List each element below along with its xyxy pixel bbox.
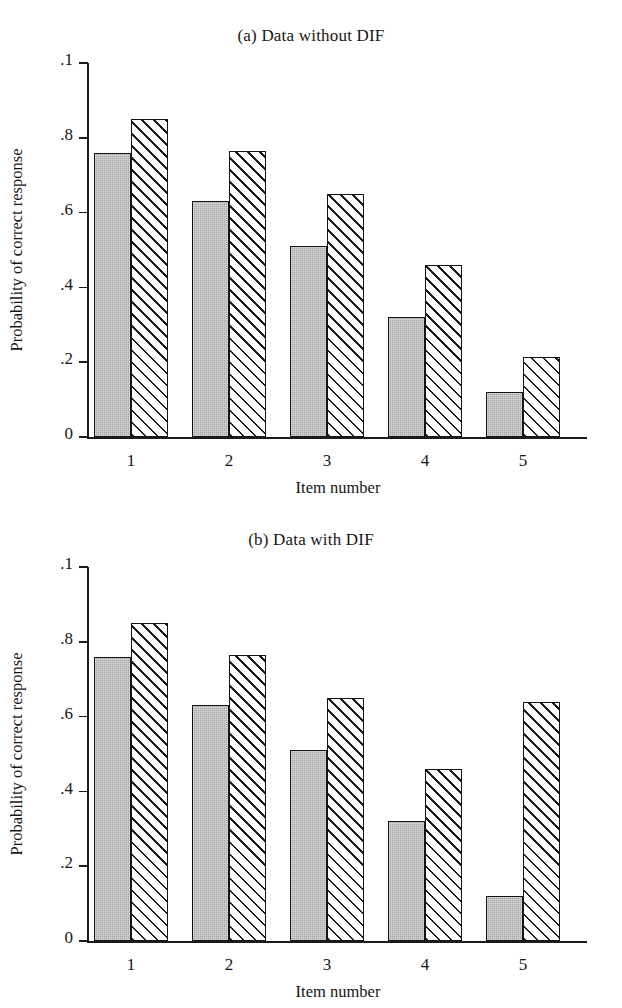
x-axis-category-label: 4 <box>388 955 462 975</box>
panel-b-bar-groups <box>88 567 588 941</box>
panel-b-title: (b) Data with DIF <box>0 530 622 550</box>
bar-focal-group <box>523 702 560 941</box>
panel-b-y-tick-label: .8 <box>60 630 73 648</box>
x-axis-category-label: 2 <box>192 955 266 975</box>
bar-reference-group <box>486 392 523 437</box>
panel-b-y-axis-label: Probability of correct response <box>6 567 28 941</box>
panel-b-y-tick-label: .6 <box>60 705 73 723</box>
bar-reference-group <box>192 201 229 437</box>
bar-group <box>94 63 168 437</box>
bar-group <box>192 567 266 941</box>
bar-focal-group <box>425 769 462 941</box>
bar-group <box>486 63 560 437</box>
bar-focal-group <box>229 655 266 941</box>
bar-focal-group <box>229 151 266 437</box>
bar-focal-group <box>523 357 560 437</box>
x-axis-category-label: 1 <box>94 451 168 471</box>
x-axis-category-label: 3 <box>290 955 364 975</box>
panel-a-y-tick-mark: 0 <box>79 436 88 438</box>
bar-focal-group <box>327 698 364 941</box>
panel-a-y-tick-label: .2 <box>60 350 73 368</box>
panel-a-y-axis-label-text: Probability of correct response <box>7 149 27 352</box>
bar-reference-group <box>486 896 523 941</box>
bar-group <box>388 63 462 437</box>
panel-a-y-tick-mark: .6 <box>79 212 88 214</box>
x-axis-category-label: 5 <box>486 451 560 471</box>
panel-a-y-tick-mark: .1 <box>79 62 88 64</box>
bar-reference-group <box>290 246 327 437</box>
bar-reference-group <box>192 705 229 941</box>
panel-a-y-tick-label: .8 <box>60 126 73 144</box>
panel-a-title: (a) Data without DIF <box>0 26 622 46</box>
bar-group <box>388 567 462 941</box>
bar-group <box>290 63 364 437</box>
bar-reference-group <box>290 750 327 941</box>
panel-a-y-tick-label: .4 <box>60 276 73 294</box>
panel-b-y-tick-label: 0 <box>65 929 74 947</box>
panel-a-bar-groups <box>88 63 588 437</box>
panel-a-y-tick-label: .6 <box>60 201 73 219</box>
bar-focal-group <box>327 194 364 437</box>
panel-a-plot-area: .1.8.6.4.20 12345 <box>88 63 588 437</box>
panel-b-y-tick-label: .1 <box>60 555 73 573</box>
figure-panel-a: (a) Data without DIF Probability of corr… <box>0 0 622 504</box>
bar-group <box>94 567 168 941</box>
bar-reference-group <box>388 821 425 941</box>
panel-a-y-tick-label: .1 <box>60 51 73 69</box>
bar-group <box>290 567 364 941</box>
panel-a-y-tick-label: 0 <box>65 425 74 443</box>
panel-a-y-axis-label: Probability of correct response <box>6 63 28 437</box>
x-axis-category-label: 4 <box>388 451 462 471</box>
panel-b-y-tick-mark: .8 <box>79 641 88 643</box>
bar-reference-group <box>94 657 131 941</box>
panel-b-y-axis-label-text: Probability of correct response <box>7 653 27 856</box>
x-axis-category-label: 2 <box>192 451 266 471</box>
panel-b-y-tick-mark: .4 <box>79 791 88 793</box>
panel-a-y-tick-mark: .2 <box>79 361 88 363</box>
figure-panel-b: (b) Data with DIF Probability of correct… <box>0 504 622 1008</box>
panel-a-x-axis-line <box>87 437 587 439</box>
bar-focal-group <box>131 623 168 941</box>
bar-reference-group <box>388 317 425 437</box>
panel-b-y-tick-mark: 0 <box>79 940 88 942</box>
bar-reference-group <box>94 153 131 437</box>
bar-group <box>486 567 560 941</box>
panel-b-y-tick-mark: .2 <box>79 865 88 867</box>
panel-b-y-tick-mark: .1 <box>79 566 88 568</box>
panel-b-x-axis-label: Item number <box>88 982 588 1002</box>
bar-group <box>192 63 266 437</box>
panel-b-y-tick-mark: .6 <box>79 716 88 718</box>
panel-b-y-tick-label: .2 <box>60 854 73 872</box>
x-axis-category-label: 1 <box>94 955 168 975</box>
panel-b-x-axis-line <box>87 941 587 943</box>
panel-a-y-tick-mark: .4 <box>79 287 88 289</box>
x-axis-category-label: 5 <box>486 955 560 975</box>
bar-focal-group <box>425 265 462 437</box>
panel-a-x-axis-label: Item number <box>88 478 588 498</box>
panel-a-y-tick-mark: .8 <box>79 137 88 139</box>
panel-b-plot-area: .1.8.6.4.20 12345 <box>88 567 588 941</box>
bar-focal-group <box>131 119 168 437</box>
panel-b-y-tick-label: .4 <box>60 780 73 798</box>
x-axis-category-label: 3 <box>290 451 364 471</box>
